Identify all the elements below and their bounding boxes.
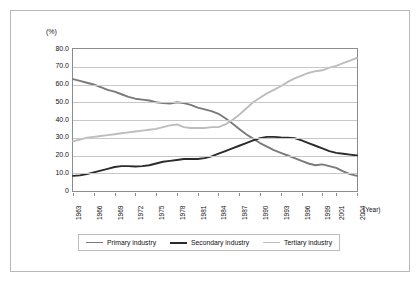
- gridline: [73, 102, 357, 103]
- gridline: [73, 85, 357, 86]
- x-axis-tick-mark: [73, 193, 74, 196]
- legend-color-swatch: [170, 242, 187, 244]
- legend-item[interactable]: Secondary industry: [170, 239, 249, 246]
- gridline: [73, 120, 357, 121]
- x-axis-tick-mark: [135, 193, 136, 196]
- x-axis-tick-mark: [302, 193, 303, 196]
- x-axis-tick-mark: [322, 193, 323, 196]
- y-axis-tick-labels: 80.070.060.050.040.030.020.010.00: [36, 48, 69, 192]
- y-axis-tick: 80.0: [39, 45, 69, 52]
- x-axis-tick: 1966: [97, 206, 104, 220]
- y-axis-tick: 70.0: [39, 62, 69, 69]
- series-line: [73, 58, 357, 141]
- x-axis-tick-mark: [357, 193, 358, 196]
- x-axis-tick: 1978: [180, 206, 187, 220]
- chart-legend: Primary industrySecondary industryTertia…: [78, 234, 340, 251]
- x-axis-tick: 1999: [325, 206, 332, 220]
- y-axis-tick: 0: [39, 187, 69, 194]
- line-chart: (%) 80.070.060.050.040.030.020.010.00 19…: [0, 0, 420, 285]
- legend-label: Primary industry: [107, 239, 156, 246]
- x-axis-tick-mark: [156, 193, 157, 196]
- x-axis-tick-mark: [115, 193, 116, 196]
- gridline: [73, 156, 357, 157]
- gridline: [73, 173, 357, 174]
- y-axis-tick: 40.0: [39, 116, 69, 123]
- gridline: [73, 138, 357, 139]
- x-axis-tick-mark: [198, 193, 199, 196]
- x-axis-tick: 1975: [159, 206, 166, 220]
- legend-label: Secondary industry: [191, 239, 249, 246]
- y-axis-tick: 20.0: [39, 151, 69, 158]
- x-axis-tick: 1984: [221, 206, 228, 220]
- x-axis-tick-labels: 1963196619691972197519781981198419871990…: [72, 193, 358, 227]
- y-axis-tick: 10.0: [39, 169, 69, 176]
- x-axis-tick: 1987: [242, 206, 249, 220]
- legend-item[interactable]: Tertiary industry: [263, 239, 332, 246]
- x-axis-tick-mark: [218, 193, 219, 196]
- x-axis-tick: 1993: [284, 206, 291, 220]
- x-axis-tick-mark: [177, 193, 178, 196]
- y-axis-tick: 60.0: [39, 80, 69, 87]
- x-axis-tick: 1996: [305, 206, 312, 220]
- x-axis-tick-mark: [260, 193, 261, 196]
- x-axis-tick: 1972: [138, 206, 145, 220]
- legend-label: Tertiary industry: [284, 239, 332, 246]
- y-axis-tick: 30.0: [39, 133, 69, 140]
- x-axis-tick: 2001: [339, 206, 346, 220]
- y-axis-unit-label: (%): [46, 28, 57, 35]
- x-axis-tick: 1990: [263, 206, 270, 220]
- x-axis-unit-label: (Year): [363, 206, 380, 213]
- x-axis-tick-mark: [281, 193, 282, 196]
- legend-color-swatch: [86, 242, 103, 243]
- legend-item[interactable]: Primary industry: [86, 239, 156, 246]
- x-axis-tick-mark: [94, 193, 95, 196]
- y-axis-tick: 50.0: [39, 98, 69, 105]
- x-axis-tick: 1981: [201, 206, 208, 220]
- legend-color-swatch: [263, 242, 280, 243]
- x-axis-tick: 1963: [76, 206, 83, 220]
- x-axis-tick: 1969: [118, 206, 125, 220]
- gridline: [73, 67, 357, 68]
- x-axis-tick-mark: [336, 193, 337, 196]
- plot-area: [72, 48, 358, 192]
- x-axis-tick-mark: [239, 193, 240, 196]
